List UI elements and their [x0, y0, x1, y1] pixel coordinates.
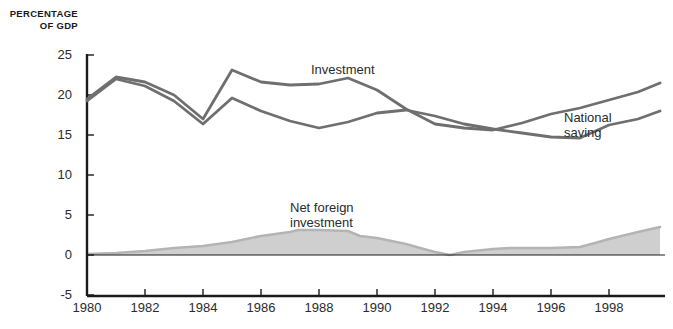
y-tick-label-20: 20 — [40, 87, 72, 102]
x-tick-label-1996: 1996 — [527, 300, 575, 315]
y-tick-label-15: 15 — [40, 127, 72, 142]
chart-plot-area — [0, 0, 673, 329]
x-tick-label-1994: 1994 — [469, 300, 517, 315]
chart-figure: PERCENTAGE OF GDP 25 20 15 10 5 0 -5 198… — [0, 0, 673, 329]
x-tick-label-1988: 1988 — [295, 300, 343, 315]
x-tick-label-1980: 1980 — [63, 300, 111, 315]
series-annotation-national-saving-line2: saving — [564, 125, 602, 140]
x-tick-label-1984: 1984 — [179, 300, 227, 315]
series-area-net-foreign-investment — [87, 227, 660, 255]
y-tick-label-5: 5 — [40, 207, 72, 222]
series-annotation-net-foreign-investment-line1: Net foreign — [290, 200, 354, 215]
x-tick-label-1992: 1992 — [411, 300, 459, 315]
series-annotation-net-foreign-investment: Net foreign investment — [290, 200, 354, 230]
y-tick-label-0: 0 — [40, 247, 72, 262]
series-annotation-national-saving-line1: National — [564, 110, 612, 125]
x-tick-label-1982: 1982 — [121, 300, 169, 315]
x-tick-label-1990: 1990 — [353, 300, 401, 315]
x-tick-label-1998: 1998 — [585, 300, 633, 315]
series-annotation-net-foreign-investment-line2: investment — [290, 215, 353, 230]
y-tick-label-25: 25 — [40, 47, 72, 62]
series-annotation-investment: Investment — [311, 62, 375, 77]
x-tick-label-1986: 1986 — [237, 300, 285, 315]
series-annotation-national-saving: National saving — [564, 110, 612, 140]
y-tick-label-10: 10 — [40, 167, 72, 182]
